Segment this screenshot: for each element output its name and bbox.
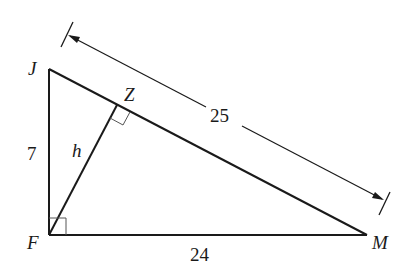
dimension-line-right [242,126,382,199]
altitude-label-h: h [72,140,82,161]
altitude-fz [49,105,117,235]
side-label-jf: 7 [27,143,37,164]
triangle-jfm [49,69,367,235]
side-label-jm: 25 [210,105,229,126]
vertex-label-m: M [371,232,389,253]
vertex-label-j: J [28,58,38,79]
tick-mark-start [61,22,73,47]
side-label-fm: 24 [190,244,210,265]
tick-mark-end [379,192,390,215]
hypotenuse-jm [49,69,367,235]
triangle-diagram: J F M Z 7 h 24 25 [0,0,410,271]
arrowhead-left-icon [68,35,80,43]
arrowhead-right-icon [372,192,384,200]
vertex-label-f: F [26,232,39,253]
dimension-line-left [70,36,206,107]
vertex-label-z: Z [124,84,135,105]
